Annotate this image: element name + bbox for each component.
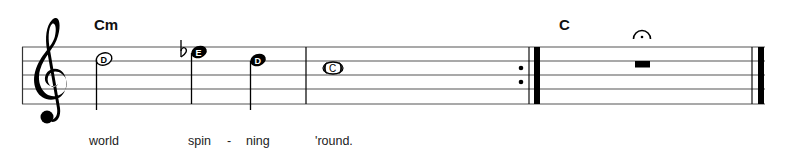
note-letter: D: [101, 55, 108, 65]
note-whole-c: C: [323, 62, 343, 74]
chord-symbol-cm: Cm: [94, 16, 118, 33]
whole-rest-icon: [635, 61, 650, 68]
note-letter: C: [329, 63, 336, 74]
note-half-d: D: [94, 51, 113, 110]
lyric-hyphen: -: [227, 134, 231, 148]
chord-symbol-c: C: [559, 16, 570, 33]
lyric-round: 'round.: [315, 134, 353, 148]
music-score: Cm C D E D C: [0, 0, 806, 153]
repeat-dot-upper: [519, 66, 524, 71]
note-quarter-d: D: [248, 52, 267, 110]
lyric-spin: spin: [188, 134, 211, 148]
note-quarter-e-flat: E: [189, 44, 208, 104]
flat-accidental-icon: [181, 40, 186, 57]
note-letter: D: [255, 56, 262, 66]
staff: [22, 47, 765, 104]
lyric-ning: ning: [246, 134, 270, 148]
note-letter: E: [196, 48, 202, 58]
lyrics: world spin - ning 'round.: [88, 134, 353, 148]
repeat-dot-lower: [519, 80, 524, 85]
treble-clef-icon: [34, 18, 67, 124]
fermata-icon: [634, 31, 651, 40]
lyric-world: world: [88, 134, 119, 148]
